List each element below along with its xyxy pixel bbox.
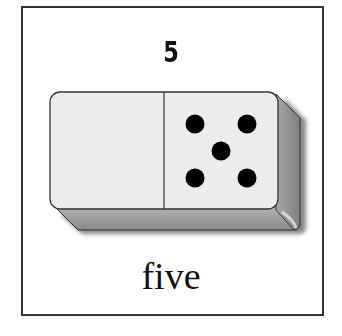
number-word: five <box>0 254 342 298</box>
domino-right-side <box>276 94 300 230</box>
